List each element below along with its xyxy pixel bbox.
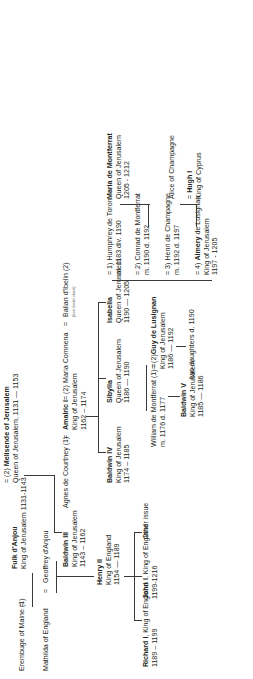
person-name: Hugh I [186, 171, 194, 193]
henri-line1: = 3) Henri de Champagne [164, 193, 173, 275]
connector-erembuge-fulk [32, 573, 33, 607]
person-balian: Balian d'Ibelin (2) (see Ibelin chart) [62, 262, 76, 317]
person-maria-comnena: Maria Comnena [62, 333, 71, 383]
person-name: Balian d'Ibelin (2) [62, 262, 71, 317]
person-melisende: = (2) Melisende of Jerusalem Queen of Je… [3, 374, 20, 483]
person-titles: King of Jerusalem [203, 196, 212, 275]
balian-chart-note: (see Ibelin chart) [71, 262, 76, 317]
connector-to-john1 [134, 576, 142, 577]
person-titles: King of Cyprus [195, 152, 204, 199]
connector-henry2-children-horizontal [134, 533, 135, 621]
connector-alice-vertical [180, 204, 198, 205]
marriage-equals-agnes-amalric: = [62, 435, 70, 439]
humphrey-line1: = 1) Humphrey de Toron [106, 198, 115, 275]
person-aimery: = 4) Aimery de Lusignan King of Jerusale… [194, 196, 220, 275]
person-henri-champagne: = 3) Henri de Champagne m. 1192 d. 1197 [164, 193, 181, 275]
person-name: Aimery [194, 237, 202, 261]
connector-henry2-children-vertical [124, 576, 134, 577]
connector-to-sibylla [98, 378, 106, 379]
person-name: Humphrey de Toron [106, 198, 114, 260]
person-mathilda: Mathilda of England [42, 608, 51, 671]
person-name: Guy de Lusignan [150, 297, 158, 355]
person-baldwin3: Baldwin III King of Jerusalem 1143 – 116… [62, 510, 88, 567]
person-titles: King of Jerusalem [71, 510, 80, 567]
person-name: Maria de Montferrat [106, 133, 115, 199]
connector-mathilda-geoffrey [56, 561, 57, 593]
person-titles: Queen of Jerusalem [115, 133, 124, 199]
person-dates: 1199-1216 [151, 524, 160, 599]
person-name: Richard I [142, 637, 150, 667]
connector-melisende-children-vertical [24, 475, 54, 476]
person-sibylla: Sibylla Queen of Jerusalem 1186 — 1190 [106, 339, 132, 403]
melisende-line1: = (2) Melisende of Jerusalem [3, 374, 12, 483]
connector-melisende-children-horizontal [54, 475, 55, 533]
person-dates: m. 1192 d. 1197 [173, 193, 182, 275]
person-dates: 1174 – 1185 [123, 426, 132, 483]
person-william-montferrat: William de Montferrat (1) = m. 1176 d. 1… [150, 363, 167, 447]
person-name: Fulk d'Anjou [11, 477, 20, 569]
connector-to-other-issue [134, 532, 142, 533]
person-fulk: Fulk d'Anjou King of Jerusalem 1131-1143 [11, 477, 28, 569]
connector-sibylla-marriages [146, 365, 147, 411]
person-two-daughters: two daughters d. 1190 [188, 309, 197, 379]
connector-henri-issue [196, 205, 197, 227]
person-name: Melisende of Jerusalem [3, 386, 11, 466]
person-name: Agnes de Courtney (1) [62, 437, 71, 508]
person-name: Other issue [142, 503, 151, 539]
person-name: Mathilda of England [42, 608, 51, 671]
person-dates: 1205 - 1212 [123, 133, 132, 199]
person-titles: King of Jerusalem 1131-1143 [20, 477, 29, 569]
person-dates: 1185 — 1186 [197, 360, 206, 417]
person-dates: m. 1183 div. 1190 [115, 198, 124, 275]
person-dates: 1186 — 1190 [123, 339, 132, 403]
person-titles: King of England [105, 535, 114, 585]
person-baldwin4: Baldwin IV King of Jerusalem 1174 – 1185 [106, 426, 132, 483]
marriage-equals-maria-balian: = [62, 322, 70, 326]
person-dates: m. 1176 d. 1177 [159, 363, 168, 447]
person-titles: Queen of Jerusalem, 1131 — 1153 [12, 374, 21, 483]
marriage-order-3-henri: = 3) [164, 263, 172, 275]
marriage-equals-alice-hugh: = [186, 195, 194, 199]
connector-amalric-children-vertical [86, 416, 98, 417]
chart-canvas: Erembuge of Maine (1) = Fulk d'Anjou Kin… [0, 0, 253, 679]
connector-geoffrey-henry2 [56, 576, 94, 577]
person-name: Alice of Champagne [168, 135, 177, 199]
person-name: Baldwin III [62, 510, 71, 567]
connector-to-baldwin4 [98, 452, 106, 453]
person-agnes: Agnes de Courtney (1) [62, 437, 71, 508]
marriage-order-2: = (2) [3, 468, 11, 483]
genealogy-chart: Erembuge of Maine (1) = Fulk d'Anjou Kin… [0, 0, 253, 679]
person-maria-montferrat: Maria de Montferrat Queen of Jerusalem 1… [106, 133, 132, 199]
person-name: Baldwin IV [106, 426, 115, 483]
person-titles: Queen of Jerusalem [115, 339, 124, 403]
person-name: Erembuge of Maine (1) [18, 598, 27, 671]
person-amalric-titles: King of Jerusalem 1162 – 1174 [71, 373, 88, 430]
person-amalric: Amalric I [62, 400, 71, 430]
hugh-line1: = Hugh I [186, 152, 195, 199]
amalric-line1: Amalric I [62, 400, 71, 430]
marriage-order-2-guy: = (2) [150, 354, 158, 369]
person-name: Henry II [96, 535, 105, 585]
person-hugh1: = Hugh I King of Cyprus [186, 152, 203, 199]
marriage-order-2-amalric-maria: = (2) [62, 385, 70, 400]
person-name: two daughters d. 1190 [188, 309, 197, 379]
connector-maria-montferrat-vertical [120, 204, 150, 205]
person-dates: 1143 – 1162 [79, 510, 88, 567]
person-name: William de Montferrat (1) = [150, 363, 159, 447]
person-henry2: Henry II King of England 1154 — 1189 [96, 535, 122, 585]
person-titles: King of Jerusalem [159, 297, 168, 369]
marriage-order-2-conrad: = 2) [134, 263, 142, 275]
person-titles: King of Jerusalem [71, 373, 80, 430]
person-dates: 1162 – 1174 [80, 373, 89, 430]
person-name: Henri de Champagne [164, 193, 172, 260]
connector-to-baldwin3 [54, 532, 62, 533]
person-alice: Alice of Champagne [168, 135, 177, 199]
marriage-equals-erembuge-fulk: = [18, 603, 26, 607]
person-humphrey: = 1) Humphrey de Toron m. 1183 div. 1190 [106, 198, 123, 275]
person-other-issue: Other issue [142, 503, 151, 539]
marriage-order-4-aimery: = 4) [194, 263, 202, 275]
marriage-order-1-humphrey: = 1) [106, 263, 114, 275]
person-name: Geoffrey d'Anjou [42, 531, 51, 584]
person-name: John I [142, 578, 150, 599]
connector-to-two-daughters [176, 346, 186, 347]
